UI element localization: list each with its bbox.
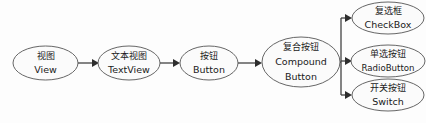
node-radiobutton[interactable]: 单选按钮 RadioButton <box>351 45 425 77</box>
edge-button-to-compoundbutton <box>238 59 262 67</box>
arrowhead-icon <box>255 59 262 67</box>
node-textview-label-cn: 文本视图 <box>111 50 147 61</box>
node-compoundbutton-label-cn: 复合按钮 <box>283 41 319 52</box>
edge-compoundbutton-to-radiobutton <box>341 57 352 65</box>
node-view-label-cn: 视图 <box>37 50 55 61</box>
arrowhead-icon <box>345 14 352 22</box>
arrowhead-icon <box>345 91 352 99</box>
diagram-canvas: 视图 View 文本视图 TextView 按钮 Button 复合按钮 Com… <box>0 0 426 123</box>
edge-compoundbutton-to-switch <box>341 91 352 99</box>
edge-textview-to-button <box>160 59 180 67</box>
node-radiobutton-label-cn: 单选按钮 <box>370 48 406 59</box>
node-checkbox-label-cn: 复选框 <box>375 5 402 16</box>
node-view-label-en: View <box>34 64 57 75</box>
flowchart-svg: 视图 View 文本视图 TextView 按钮 Button 复合按钮 Com… <box>0 0 426 123</box>
edge-branch-bus <box>340 18 341 95</box>
node-button-label-cn: 按钮 <box>200 50 218 61</box>
node-switch[interactable]: 开关按钮 Switch <box>352 79 424 111</box>
node-compoundbutton-label-en-line2: Button <box>285 71 317 82</box>
node-textview[interactable]: 文本视图 TextView <box>98 46 160 80</box>
node-checkbox-label-en: CheckBox <box>365 19 412 30</box>
node-button[interactable]: 按钮 Button <box>180 46 238 80</box>
edge-compoundbutton-to-checkbox <box>341 14 352 22</box>
node-textview-label-en: TextView <box>107 64 150 75</box>
node-compoundbutton-label-en-line1: Compound <box>275 56 327 67</box>
node-radiobutton-label-en: RadioButton <box>362 63 415 73</box>
edge-view-to-textview <box>78 59 99 67</box>
node-switch-label-en: Switch <box>372 96 403 107</box>
node-view[interactable]: 视图 View <box>13 46 78 80</box>
arrowhead-icon <box>173 59 180 67</box>
node-checkbox[interactable]: 复选框 CheckBox <box>352 2 424 34</box>
node-switch-label-cn: 开关按钮 <box>370 82 406 93</box>
node-button-label-en: Button <box>193 64 225 75</box>
node-compoundbutton[interactable]: 复合按钮 Compound Button <box>262 37 340 87</box>
